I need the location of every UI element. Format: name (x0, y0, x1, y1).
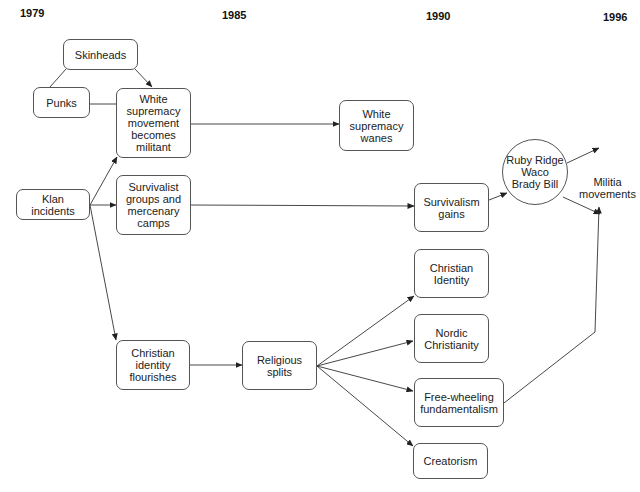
edge-survivalism-circle (489, 193, 507, 200)
node-punks: Punks (33, 87, 90, 118)
node-creatorism: Creatorism (413, 443, 488, 479)
node-white-supremacy-wanes: White supremacy wanes (339, 100, 414, 151)
edge-klan-white-supremacy (90, 157, 117, 205)
node-free-wheeling-fundamentalism: Free-wheeling fundamentalism (414, 378, 504, 427)
node-nordic-christianity: Nordic Christianity (414, 314, 489, 363)
edge-splits-christian-identity (317, 296, 414, 366)
edge-skinheads-punks (50, 69, 66, 87)
edge-survivalist-survivalism (191, 205, 414, 206)
edge-circle-militia-upper (567, 148, 599, 163)
node-militia-movements: Militia movements (575, 176, 640, 200)
edge-splits-nordic (317, 341, 413, 366)
node-survivalism-gains: Survivalism gains (414, 183, 489, 232)
edge-splits-creatorism (317, 366, 413, 446)
node-white-supremacy-militant: White supremacy movement becomes militan… (116, 88, 191, 158)
node-survivalist-groups: Survivalist groups and mercenary camps (116, 175, 191, 235)
connector-layer (0, 0, 640, 492)
edge-skinheads-white-supremacy (135, 69, 152, 87)
edge-klan-christian-identity-flourishes (90, 205, 116, 340)
node-ruby-ridge-waco-brady-bill: Ruby Ridge Waco Brady Bill (502, 139, 568, 205)
node-klan-incidents: Klan incidents (16, 189, 90, 220)
node-skinheads: Skinheads (63, 39, 138, 70)
edge-free-wheeling-militia (504, 207, 599, 403)
node-christian-identity-flourishes: Christian identity flourishes (116, 340, 190, 390)
node-religious-splits: Religious splits (242, 341, 317, 390)
node-christian-identity: Christian Identity (414, 249, 489, 298)
